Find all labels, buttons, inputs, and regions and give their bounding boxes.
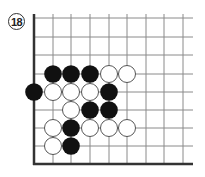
white-stone: [119, 66, 136, 83]
white-stone: [101, 66, 118, 83]
white-stone: [63, 84, 80, 101]
black-stone: [62, 137, 80, 155]
white-stone: [45, 84, 62, 101]
black-stone: [100, 101, 118, 119]
white-stone: [45, 120, 62, 137]
go-board: [0, 0, 205, 177]
white-stone: [82, 84, 99, 101]
black-stone: [81, 65, 99, 83]
white-stone: [45, 138, 62, 155]
white-stone: [63, 102, 80, 119]
white-stone: [119, 120, 136, 137]
black-stone: [25, 83, 43, 101]
black-stone: [81, 101, 99, 119]
white-stone: [101, 120, 118, 137]
black-stone: [62, 65, 80, 83]
black-stone: [44, 65, 62, 83]
black-stone: [100, 83, 118, 101]
white-stone: [82, 120, 99, 137]
black-stone: [62, 119, 80, 137]
